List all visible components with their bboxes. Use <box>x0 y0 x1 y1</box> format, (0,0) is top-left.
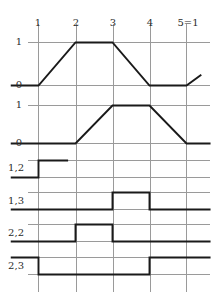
trace-panel-2 <box>11 106 211 144</box>
waveform-plot <box>0 0 216 301</box>
row-label-1-2: 1,2 <box>0 163 24 173</box>
x-tick-label-2: 2 <box>56 18 96 28</box>
y-tick-label-panel1-zero: 0 <box>0 80 22 90</box>
x-tick-label-1: 1 <box>18 18 58 28</box>
y-tick-label-panel2-one: 1 <box>0 100 22 110</box>
horizontal-gridlines <box>28 43 210 275</box>
x-tick-label-3: 3 <box>93 18 133 28</box>
row-label-2-2: 2,2 <box>0 228 24 238</box>
row-label-1-3: 1,3 <box>0 196 24 206</box>
x-tick-label-5: 5=1 <box>168 18 208 28</box>
trace-panel-5-2-2 <box>11 225 211 242</box>
vertical-gridlines <box>39 24 187 292</box>
figure-root: 1 2 3 4 5=1 1 0 1 0 1,2 1,3 2,2 2,3 <box>0 0 216 301</box>
traces <box>11 43 211 275</box>
y-tick-label-panel1-one: 1 <box>0 37 22 47</box>
trace-panel-6-2-3 <box>11 258 211 275</box>
y-tick-label-panel2-zero: 0 <box>0 138 22 148</box>
trace-panel-1 <box>11 43 202 86</box>
x-tick-label-4: 4 <box>130 18 170 28</box>
trace-panel-4-1-3 <box>11 193 211 210</box>
row-label-2-3: 2,3 <box>0 261 24 271</box>
